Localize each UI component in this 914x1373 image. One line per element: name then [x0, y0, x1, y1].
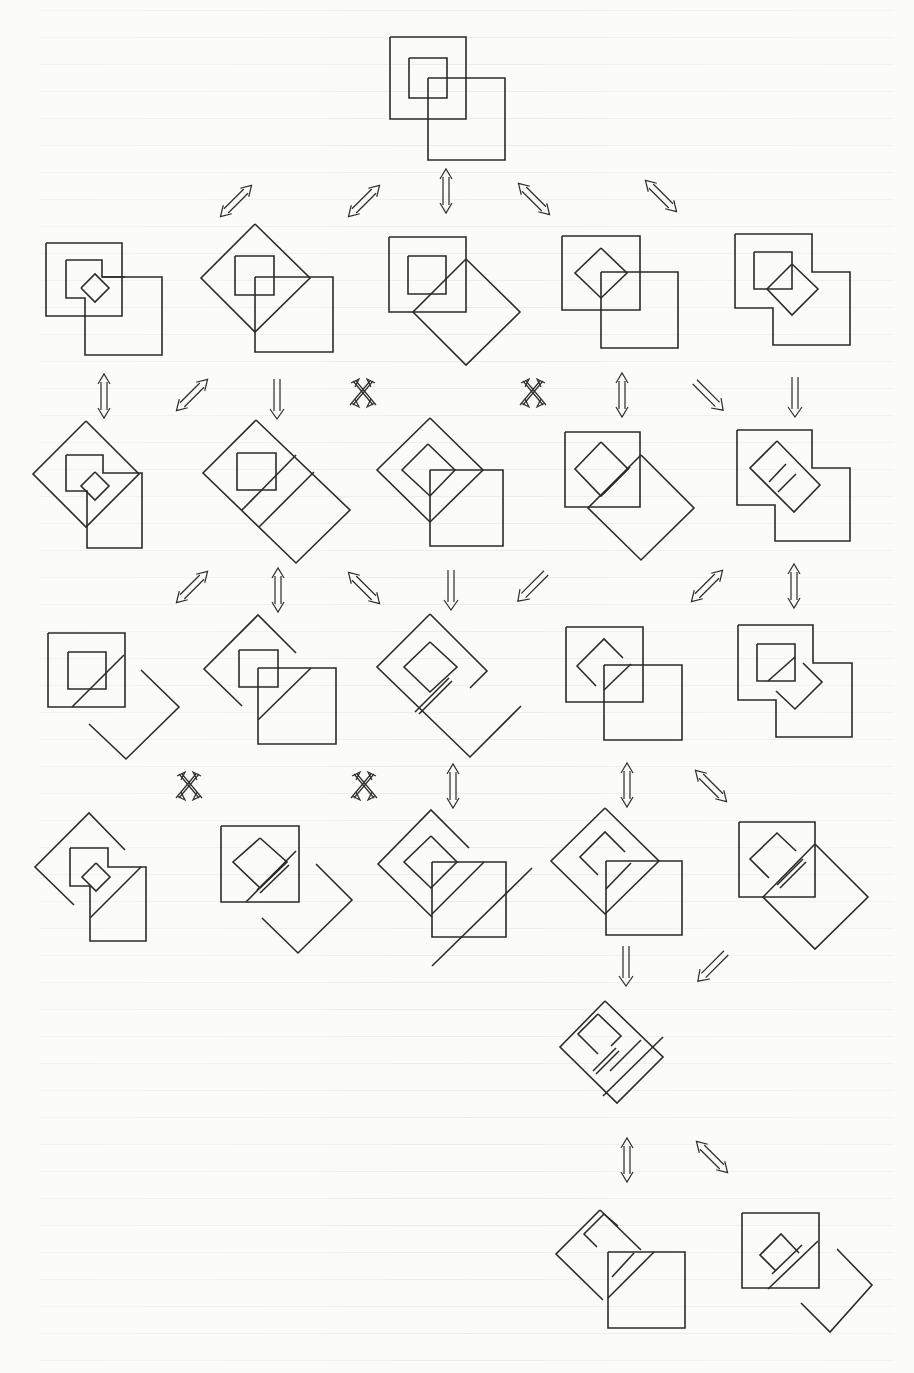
figure-stroke — [432, 862, 506, 937]
double-diag-ne-arrow-icon — [172, 375, 212, 415]
figure-r1c5 — [735, 234, 850, 345]
double-diag-ne-arrow-icon — [172, 567, 212, 607]
cross-arrow-icon — [520, 379, 546, 407]
figure-stroke — [259, 472, 314, 527]
double-diag-ne-arrow-icon — [344, 181, 384, 221]
double-vertical-arrow-icon — [621, 763, 633, 807]
figure-stroke — [221, 826, 299, 902]
figure-stroke — [778, 474, 796, 492]
figure-stroke — [750, 441, 820, 512]
figure-stroke — [66, 260, 124, 278]
double-diag-ne-arrow-icon — [216, 181, 256, 221]
figure-stroke — [260, 865, 289, 893]
figure-stroke — [257, 862, 286, 890]
single-diag-sw-arrow-icon — [693, 948, 731, 986]
figure-r2c3 — [377, 418, 503, 546]
figure-stroke — [255, 277, 333, 352]
single-down-arrow-icon — [444, 570, 458, 610]
figure-stroke — [584, 1214, 618, 1247]
figure-stroke — [204, 615, 296, 706]
figure-stroke — [377, 614, 521, 757]
figure-stroke — [203, 420, 350, 563]
figure-r4c1 — [35, 813, 146, 941]
figure-stroke — [237, 453, 276, 490]
double-diag-nw-arrow-icon — [514, 179, 554, 219]
single-down-arrow-icon — [788, 377, 802, 417]
figure-r2c5 — [737, 430, 850, 541]
figure-r6c1 — [556, 1210, 685, 1328]
figure-stroke — [70, 848, 146, 941]
double-vertical-arrow-icon — [616, 373, 628, 417]
figure-stroke — [777, 859, 803, 885]
figure-stroke — [89, 670, 179, 759]
figure-stroke — [575, 442, 628, 496]
single-down-arrow-icon — [270, 379, 284, 419]
double-vertical-arrow-icon — [272, 568, 284, 612]
figure-stroke — [604, 664, 631, 690]
figure-stroke — [776, 663, 822, 709]
double-diag-nw-arrow-icon — [344, 568, 384, 608]
figure-stroke — [603, 467, 630, 494]
figure-stroke — [556, 1210, 603, 1300]
figure-r3c1 — [48, 633, 179, 759]
figure-r4c3 — [378, 810, 532, 966]
figure-stroke — [389, 237, 466, 312]
figure-stroke — [242, 455, 296, 510]
figure-stroke — [90, 867, 141, 918]
figure-stroke — [606, 863, 631, 889]
double-vertical-arrow-icon — [621, 1138, 633, 1182]
figure-stroke — [768, 657, 795, 681]
double-diag-nw-arrow-icon — [641, 176, 681, 216]
figure-r4c5 — [739, 822, 868, 949]
single-diag-sw-arrow-icon — [513, 568, 551, 606]
figure-r2c1 — [33, 421, 142, 548]
figure-stroke — [258, 668, 336, 744]
figure-r2c4 — [565, 432, 694, 560]
transformation-lattice-diagram — [0, 0, 914, 1373]
figure-r5 — [560, 1001, 663, 1103]
figure-r4c2 — [221, 826, 352, 953]
figure-stroke — [772, 1245, 802, 1274]
double-vertical-arrow-icon — [98, 374, 110, 418]
figure-stroke — [580, 832, 625, 875]
figure-stroke — [578, 1014, 598, 1054]
double-diag-nw-arrow-icon — [692, 1137, 732, 1177]
figure-r3c4 — [566, 627, 682, 740]
single-down-arrow-icon — [619, 946, 633, 986]
figure-r1c2 — [201, 224, 333, 352]
double-diag-nw-arrow-icon — [691, 766, 731, 806]
figure-r2c2 — [203, 420, 350, 563]
figure-stroke — [72, 655, 124, 707]
figure-r1c1 — [46, 243, 162, 355]
figure-r3c2 — [204, 615, 336, 744]
figure-stroke — [598, 1014, 621, 1046]
figure-r3c3 — [377, 614, 521, 757]
figure-r1c4 — [562, 236, 678, 348]
figure-stroke — [46, 243, 122, 316]
figure-stroke — [33, 421, 139, 527]
figure-stroke — [801, 1249, 872, 1332]
cross-arrow-icon — [176, 772, 202, 800]
figure-stroke — [737, 430, 850, 541]
double-vertical-arrow-icon — [440, 169, 452, 213]
figure-stroke — [66, 260, 162, 355]
cross-arrow-icon — [350, 379, 376, 407]
figure-stroke — [768, 1241, 818, 1289]
figure-stroke — [258, 668, 311, 720]
figure-stroke — [432, 868, 532, 966]
figure-stroke — [81, 472, 109, 500]
double-vertical-arrow-icon — [447, 764, 459, 808]
figures-layer — [33, 37, 872, 1332]
figure-stroke — [66, 455, 142, 548]
figure-stroke — [608, 1252, 685, 1328]
figure-stroke — [596, 1051, 619, 1074]
figure-r6c2 — [742, 1213, 872, 1332]
double-diag-ne-arrow-icon — [687, 566, 727, 606]
figure-stroke — [233, 838, 287, 888]
figure-r1c3 — [389, 237, 520, 365]
figure-stroke — [68, 652, 106, 689]
figure-r3c5 — [738, 625, 852, 737]
single-diag-se-arrow-icon — [690, 377, 728, 415]
arrows-layer — [98, 169, 802, 1182]
figure-stroke — [432, 862, 484, 914]
